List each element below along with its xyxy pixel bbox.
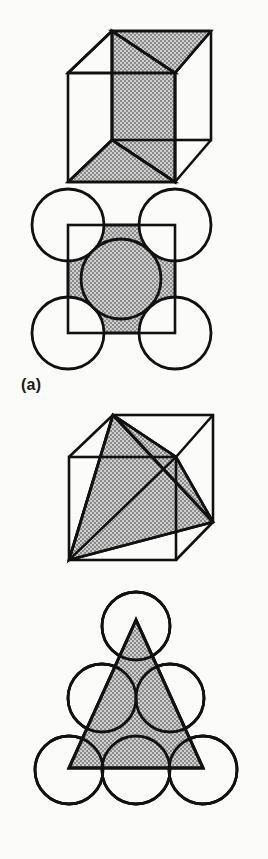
center-circle (81, 239, 161, 319)
cube-inscribed-tetrahedron (69, 415, 213, 560)
cube-b-edge-tr (176, 415, 213, 457)
panel-b: (b) (0, 400, 268, 859)
cube-edge-tl (68, 31, 112, 73)
panel-a: (a) (0, 0, 268, 412)
cube-edge-br (175, 140, 211, 182)
panel-b-graphic (0, 400, 268, 859)
square-packing-bcc-110 (32, 189, 211, 369)
panel-label-a: (a) (21, 377, 41, 393)
figure-container: (a) (0, 0, 268, 859)
panel-a-graphic (0, 0, 268, 412)
cube-diagonal-plane (68, 31, 211, 182)
triangular-packing-fcc-111 (35, 592, 237, 804)
